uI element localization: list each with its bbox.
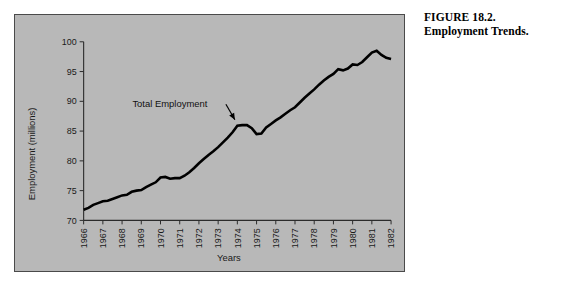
- x-tick-label: 1981: [367, 228, 377, 248]
- x-tick-label: 1982: [386, 228, 396, 248]
- y-tick-label: 100: [62, 37, 77, 47]
- x-tick-label: 1980: [348, 228, 358, 248]
- y-tick-label: 70: [67, 216, 77, 226]
- figure-container: 7075808590951001966196719681969197019711…: [0, 0, 565, 293]
- annotation-group: Total Employment: [132, 98, 234, 119]
- x-tick-label: 1972: [194, 228, 204, 248]
- annotation-label-total-employment: Total Employment: [132, 98, 207, 109]
- chart-panel: 7075808590951001966196719681969197019711…: [14, 14, 405, 272]
- employment-trends-line-chart: 7075808590951001966196719681969197019711…: [15, 15, 404, 271]
- x-tick-label: 1974: [233, 228, 243, 248]
- x-tick-label: 1978: [309, 228, 319, 248]
- y-tick-label: 90: [67, 97, 77, 107]
- x-tick-label: 1977: [290, 228, 300, 248]
- total-employment-line: [84, 51, 391, 210]
- x-tick-label: 1969: [136, 228, 146, 248]
- x-tick-label: 1968: [117, 228, 127, 248]
- y-tick-label: 75: [67, 186, 77, 196]
- x-tick-label: 1970: [156, 228, 166, 248]
- x-tick-label: 1971: [175, 228, 185, 248]
- x-tick-label: 1967: [98, 228, 108, 248]
- figure-caption: FIGURE 18.2. Employment Trends.: [424, 11, 560, 38]
- y-tick-label: 95: [67, 67, 77, 77]
- y-tick-label: 80: [67, 156, 77, 166]
- x-tick-label: 1979: [329, 228, 339, 248]
- y-axis-title: Employment (millions): [26, 108, 37, 201]
- x-axis-title: Years: [217, 252, 241, 263]
- x-tick-label: 1976: [271, 228, 281, 248]
- caption-line-2: Employment Trends.: [424, 25, 560, 39]
- x-tick-label: 1966: [79, 228, 89, 248]
- caption-line-1: FIGURE 18.2.: [424, 11, 560, 25]
- x-tick-label: 1975: [252, 228, 262, 248]
- data-series-group: [84, 51, 391, 210]
- y-tick-label: 85: [67, 126, 77, 136]
- x-tick-label: 1973: [213, 228, 223, 248]
